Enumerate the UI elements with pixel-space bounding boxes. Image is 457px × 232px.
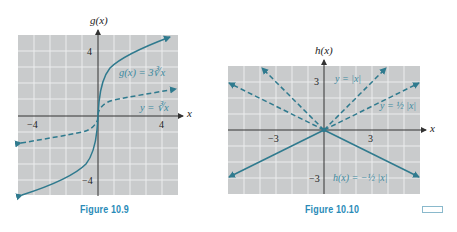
fig1-label-y: y = ∛x xyxy=(140,101,169,113)
fig2-label-half-abs: y = ½ |x| xyxy=(380,100,416,111)
fig1-tick-neg-y: −4 xyxy=(82,175,93,186)
fig2-tick-neg-y: −3 xyxy=(309,173,320,184)
fig2-tick-pos-x: 3 xyxy=(368,133,373,144)
fig1-label-g: g(x) = 3∛x xyxy=(119,66,165,78)
placeholder-box-icon xyxy=(422,206,443,213)
fig2-tick-neg-x: −3 xyxy=(268,133,279,144)
fig2-tick-pos-y: 3 xyxy=(314,76,319,87)
fig2-label-h: h(x) = −½ |x| xyxy=(333,172,388,183)
fig1-tick-pos-y: 4 xyxy=(87,46,92,57)
fig1-x-axis-label: x xyxy=(187,107,192,119)
figure-10-9-caption: Figure 10.9 xyxy=(80,203,129,215)
fig2-label-abs: y = |x| xyxy=(335,73,361,84)
fig1-tick-pos-x: 4 xyxy=(159,119,164,130)
fig1-tick-neg-x: −4 xyxy=(27,119,38,130)
figure-10-10-caption: Figure 10.10 xyxy=(305,203,359,215)
fig2-x-axis-label: x xyxy=(430,122,435,134)
fig1-y-axis-label: g(x) xyxy=(90,14,108,26)
fig2-y-axis-label: h(x) xyxy=(315,44,333,56)
